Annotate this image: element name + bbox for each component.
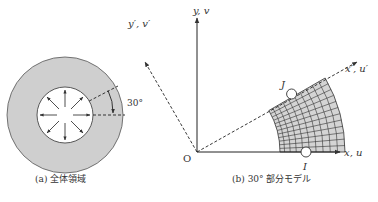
y-axis-label: y, v xyxy=(192,5,210,16)
panel-a-full-domain: 30° (a) 全体領域 xyxy=(7,57,143,184)
angle-label: 30° xyxy=(127,98,143,108)
node-I-label: I xyxy=(302,161,308,172)
origin-label: O xyxy=(183,153,191,164)
caption-b: (b) 30° 部分モデル xyxy=(232,173,311,184)
diagram-canvas: 30° (a) 全体領域 x, u y, v x′, u′ y′, v′ O J… xyxy=(0,0,378,202)
node-J xyxy=(287,89,297,99)
y-prime-axis xyxy=(145,62,197,152)
node-I xyxy=(301,147,311,157)
caption-a: (a) 全体領域 xyxy=(35,173,86,184)
y-prime-axis-label: y′, v′ xyxy=(127,18,151,29)
node-J-label: J xyxy=(279,79,286,90)
panel-b-partial-model: x, u y, v x′, u′ y′, v′ O J I (b) 30° 部分… xyxy=(127,5,369,184)
x-axis-label: x, u xyxy=(344,147,362,158)
x-prime-axis-label: x′, u′ xyxy=(345,63,369,74)
